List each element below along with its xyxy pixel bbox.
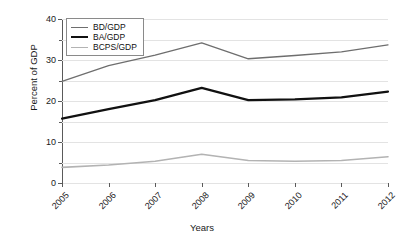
legend-label: BD/GDP	[93, 22, 126, 32]
legend-swatch-icon	[71, 36, 88, 38]
x-tick	[202, 183, 203, 187]
x-tick	[341, 183, 342, 187]
x-tick	[109, 183, 110, 187]
series-line	[62, 154, 388, 167]
x-tick	[155, 183, 156, 187]
legend-item: BA/GDP	[71, 32, 137, 42]
y-tick-label: 10	[34, 137, 56, 147]
legend-label: BCPS/GDP	[93, 42, 137, 52]
legend-label: BA/GDP	[93, 32, 125, 42]
x-tick	[388, 183, 389, 187]
x-tick	[295, 183, 296, 187]
y-tick-label: 0	[34, 178, 56, 188]
legend-swatch-icon	[71, 47, 88, 48]
chart-legend: BD/GDPBA/GDPBCPS/GDP	[66, 18, 144, 56]
legend-item: BCPS/GDP	[71, 42, 137, 52]
x-tick	[248, 183, 249, 187]
legend-item: BD/GDP	[71, 22, 137, 32]
chart-figure: 010203040 200520062007200820092010201120…	[0, 0, 404, 241]
y-axis-title: Percent of GDP	[28, 23, 39, 133]
x-axis-title: Years	[0, 222, 404, 233]
gridline	[62, 183, 388, 184]
x-tick	[62, 183, 63, 187]
series-line	[62, 88, 388, 119]
legend-swatch-icon	[71, 27, 88, 28]
